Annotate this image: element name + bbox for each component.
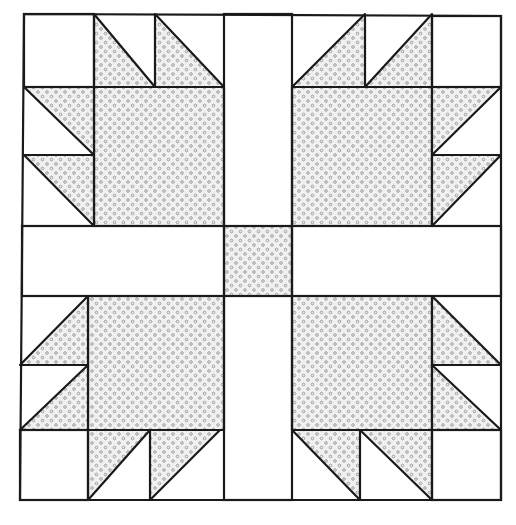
quilt-block-diagram bbox=[0, 0, 516, 525]
paw-top-left bbox=[24, 14, 224, 226]
sashing-right bbox=[292, 226, 501, 296]
paw-bottom-right bbox=[292, 296, 501, 500]
paw-bottom-left bbox=[20, 296, 224, 500]
paw-top-right bbox=[292, 14, 501, 226]
center-square bbox=[224, 226, 292, 296]
sashing-bottom bbox=[224, 296, 292, 500]
sashing-top bbox=[224, 14, 292, 226]
sashing-left bbox=[22, 226, 224, 296]
